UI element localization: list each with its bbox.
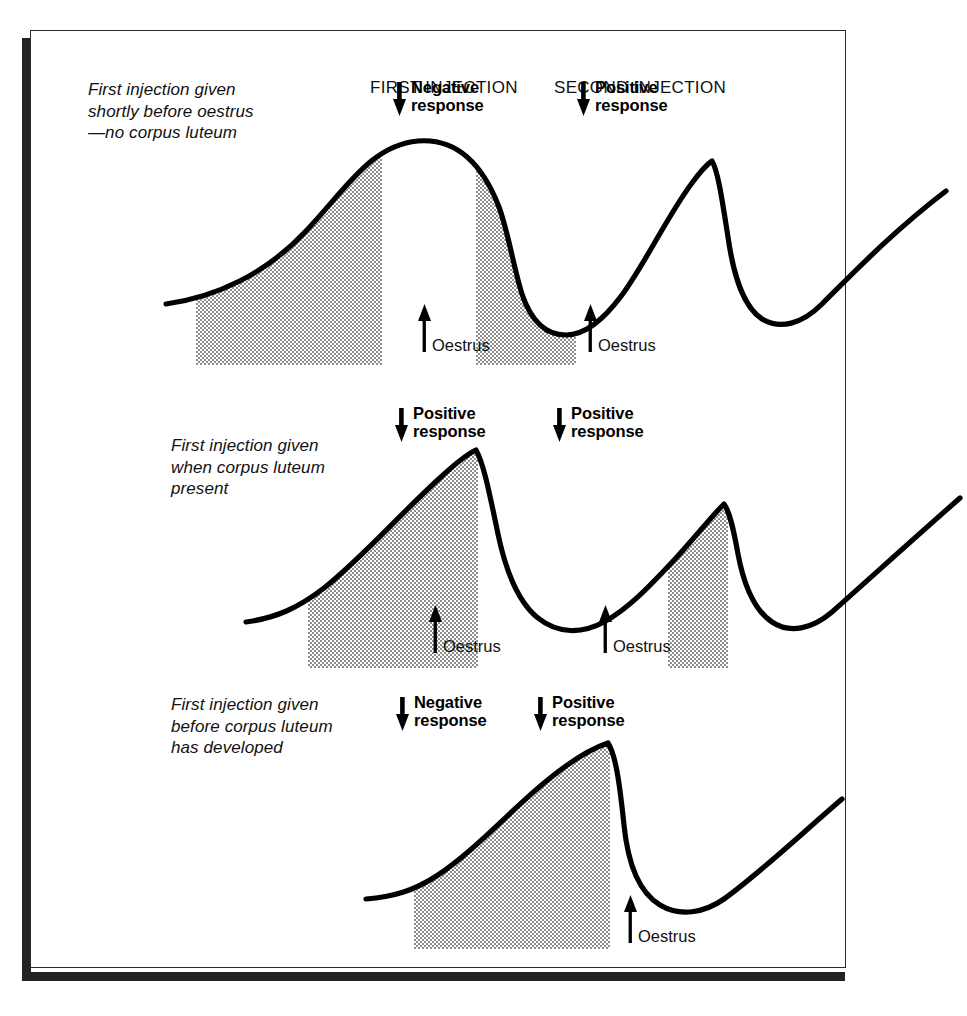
- panel-1-chart: [156, 119, 956, 369]
- panel-3-response-2-label: Positive response: [552, 694, 625, 729]
- panel-1-response-2-label: Positive response: [595, 79, 668, 114]
- panel-1-response-2: Positive response: [577, 79, 668, 116]
- arrow-down-icon: [577, 82, 590, 116]
- arrow-up-icon: [418, 304, 431, 352]
- panel-1-oestrus-marker-1: Oestrus: [418, 304, 490, 352]
- panel-1-oestrus-marker-2: Oestrus: [584, 304, 656, 352]
- panel-3-response-1-label: Negative response: [414, 694, 487, 729]
- arrow-up-icon: [624, 895, 637, 943]
- panel-2-response-1-label: Positive response: [413, 405, 486, 440]
- panel-2-oestrus-label-2: Oestrus: [613, 638, 671, 655]
- panel-1-oestrus-label-2: Oestrus: [598, 337, 656, 354]
- panel-1-response-1-label: Negative response: [411, 79, 484, 114]
- arrow-up-icon: [584, 304, 597, 352]
- page-spine-shadow-bottom: [22, 972, 845, 981]
- panel-3-oestrus-marker-1: Oestrus: [624, 895, 696, 943]
- panel-2-oestrus-marker-1: Oestrus: [429, 605, 501, 653]
- panel-3-oestrus-label-1: Oestrus: [638, 928, 696, 945]
- figure-frame: FIRST INJECTION SECOND INJECTION First i…: [30, 30, 846, 968]
- panel-1-oestrus-label-1: Oestrus: [432, 337, 490, 354]
- arrow-up-icon: [599, 605, 612, 653]
- panel-1-response-1: Negative response: [393, 79, 484, 116]
- panel-1-shading: [196, 154, 576, 365]
- arrow-up-icon: [429, 605, 442, 653]
- panel-2-response-2-label: Positive response: [571, 405, 644, 440]
- panel-3-caption: First injection given before corpus lute…: [171, 694, 333, 759]
- arrow-down-icon: [393, 82, 406, 116]
- panel-3-chart: [356, 725, 856, 960]
- panel-2-oestrus-marker-2: Oestrus: [599, 605, 671, 653]
- panel-3-shading: [414, 743, 610, 949]
- panel-2-oestrus-label-1: Oestrus: [443, 638, 501, 655]
